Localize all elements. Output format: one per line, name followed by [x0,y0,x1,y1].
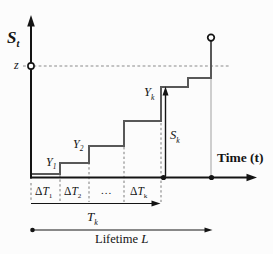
threshold-label: z [14,59,19,72]
tk-axis-dot [161,175,166,180]
delta-tk-label: ΔTk [130,185,147,197]
sk-sub: k [176,136,179,145]
jump-y1-label: Y1 [46,156,56,169]
delta-t1-sub: 1 [49,192,53,200]
sk-label: Sk [170,129,180,142]
tk-sub: k [94,218,98,227]
delta-t1-label: ΔT1 [35,185,52,197]
failure-open-circle [208,34,215,41]
diagram-canvas [0,0,273,254]
y-axis-label-sub: t [16,38,19,49]
y-axis-arrowhead [27,15,35,27]
y-axis-label: St [7,29,19,47]
jump-y2-sub: 2 [80,144,84,153]
x-axis-label: Time (t) [217,151,264,165]
interval-ellipsis: ... [101,185,112,197]
jump-yk-sub: k [151,93,154,102]
tk-label: Tk [87,210,98,224]
threshold-open-circle [28,63,34,69]
jump-yk-base: Y [144,85,151,99]
lifetime-text: Lifetime [95,232,138,246]
jump-y1-base: Y [46,155,53,169]
jump-y1-sub: 1 [53,162,57,171]
delta-t2-sub: 2 [78,192,82,200]
failure-axis-dot [209,175,214,180]
degradation-step-path [32,41,212,174]
jump-y2-base: Y [73,137,80,151]
lifetime-arrowhead [205,228,213,233]
jump-y2-label: Y2 [73,138,83,151]
tk-arrowhead [152,201,161,207]
lifetime-left-dot [30,228,35,233]
shock-degradation-diagram: St z Time (t) Y1 Y2 Yk Sk ΔT1 ΔT2 ... ΔT… [0,0,273,254]
x-axis-arrowhead [247,174,258,182]
jump-yk-label: Yk [144,86,154,99]
lifetime-var: L [141,231,148,246]
delta-tk-sub: k [144,192,148,200]
lifetime-label: Lifetime L [95,232,148,246]
delta-t2-label: ΔT2 [64,185,81,197]
